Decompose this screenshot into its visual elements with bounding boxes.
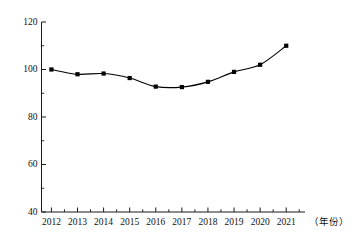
chart-axes bbox=[42, 22, 306, 212]
x-axis-caption: （年份） bbox=[309, 216, 349, 227]
line-chart: 406080100120 201220132014201520162017201… bbox=[0, 0, 356, 249]
data-point-marker bbox=[232, 70, 236, 74]
y-axis-tick-labels: 406080100120 bbox=[23, 17, 38, 217]
data-point-marker bbox=[101, 71, 105, 75]
axis-lines bbox=[42, 22, 306, 212]
x-tick-label: 2014 bbox=[94, 217, 113, 227]
data-point-marker bbox=[75, 72, 79, 76]
x-tick-label: 2013 bbox=[68, 217, 87, 227]
x-axis-tick-labels: 2012201320142015201620172018201920202021 bbox=[42, 217, 296, 227]
data-point-marker bbox=[49, 67, 53, 71]
data-point-marker bbox=[180, 85, 184, 89]
x-axis-ticks bbox=[51, 208, 299, 213]
x-tick-label: 2012 bbox=[42, 217, 61, 227]
data-point-markers bbox=[49, 44, 288, 90]
series-line-path bbox=[51, 46, 286, 88]
data-point-marker bbox=[128, 76, 132, 80]
x-tick-label: 2021 bbox=[277, 217, 296, 227]
x-tick-label: 2018 bbox=[198, 217, 217, 227]
x-tick-label: 2016 bbox=[146, 217, 165, 227]
data-point-marker bbox=[284, 44, 288, 48]
y-axis-ticks bbox=[42, 22, 47, 212]
x-tick-label: 2017 bbox=[172, 217, 191, 227]
data-series-line bbox=[51, 46, 286, 88]
y-tick-label: 60 bbox=[28, 159, 38, 169]
x-axis-caption-label: （年份） bbox=[309, 216, 349, 227]
y-tick-label: 120 bbox=[23, 17, 38, 27]
x-tick-label: 2015 bbox=[120, 217, 139, 227]
x-tick-label: 2020 bbox=[251, 217, 270, 227]
chart-canvas: 406080100120 201220132014201520162017201… bbox=[0, 0, 356, 249]
y-tick-label: 80 bbox=[28, 112, 38, 122]
data-point-marker bbox=[154, 85, 158, 89]
data-point-marker bbox=[258, 63, 262, 67]
y-tick-label: 100 bbox=[23, 64, 38, 74]
data-point-marker bbox=[206, 80, 210, 84]
y-tick-label: 40 bbox=[28, 207, 38, 217]
x-tick-label: 2019 bbox=[225, 217, 244, 227]
